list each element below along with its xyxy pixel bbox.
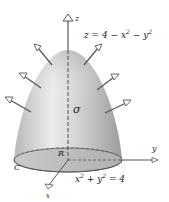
y-axis: y [122,144,158,163]
y-axis-label: y [151,144,157,153]
boundary-equation: x2 + y2 = 4 [75,172,125,184]
surface-equation: z = 4 − x2 − y2 [83,28,152,40]
normal-vector-left-1 [34,44,52,65]
x-axis-label: x [46,192,50,200]
y-axis-arrowhead-icon [152,158,158,163]
normal-vector-right-1 [84,44,102,65]
z-axis-label: z [74,14,80,23]
region-label-r: R [57,149,64,158]
arrowhead-icon [123,100,131,106]
x-axis-arrowhead-icon [45,184,53,189]
arrowhead-icon [5,97,13,103]
z-axis-arrowhead-icon [63,14,73,21]
curve-label-c: C [14,163,20,172]
z-axis: z [63,14,80,50]
paraboloid-diagram: z z = 4 − x2 − y2 y x [0,0,169,202]
arrowhead-icon [19,73,27,79]
surface-label-sigma: σ [73,103,81,116]
